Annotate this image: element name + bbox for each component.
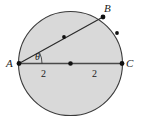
point-dot-center: [68, 61, 73, 66]
circle-diagram-svg: [0, 0, 141, 124]
point-dot-arc: [115, 31, 119, 35]
point-dot-chord-midpoint: [62, 35, 66, 39]
point-dot-c: [120, 61, 125, 66]
length-label-right-radius: 2: [92, 69, 97, 79]
angle-label-theta: θ: [35, 52, 40, 62]
geometry-figure: A B C θ 2 2: [0, 0, 141, 124]
point-label-b: B: [104, 3, 111, 14]
point-label-a: A: [6, 58, 13, 69]
length-label-left-radius: 2: [41, 69, 46, 79]
point-dot-a: [17, 61, 22, 66]
point-dot-b: [101, 15, 106, 20]
point-label-c: C: [126, 58, 133, 69]
